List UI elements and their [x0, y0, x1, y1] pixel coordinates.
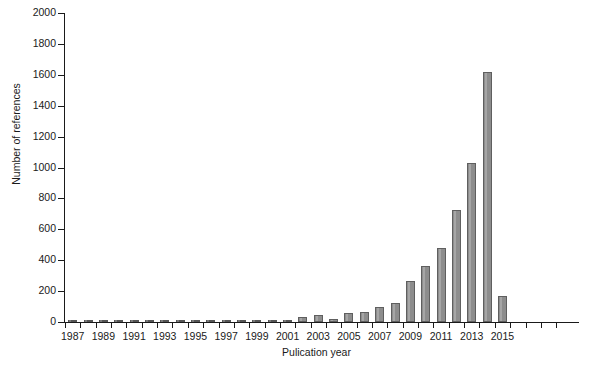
bar-2015	[498, 296, 507, 322]
x-tick	[479, 323, 480, 328]
x-tick	[449, 323, 450, 328]
y-tick-1000	[58, 168, 64, 169]
x-tick-label-2015: 2015	[482, 331, 522, 343]
bar-2006	[360, 312, 369, 323]
bar-1996	[206, 320, 215, 322]
bar-1990	[114, 320, 123, 322]
x-tick	[387, 323, 388, 328]
y-tick-1800	[58, 44, 64, 45]
x-tick	[249, 323, 250, 328]
plot-area	[65, 13, 578, 322]
bar-1997	[222, 320, 231, 322]
x-tick	[80, 323, 81, 328]
x-tick	[234, 323, 235, 328]
bar-1995	[191, 320, 200, 322]
x-tick	[126, 323, 127, 328]
x-tick	[541, 323, 542, 328]
bar-2011	[437, 248, 446, 322]
y-tick-1200	[58, 137, 64, 138]
x-tick	[295, 323, 296, 328]
x-tick	[526, 323, 527, 328]
bar-2004	[329, 319, 338, 322]
bar-2008	[391, 303, 400, 322]
y-tick-400	[58, 260, 64, 261]
y-axis-title: Number of references	[10, 34, 22, 234]
y-tick-2000	[58, 13, 64, 14]
x-tick	[556, 323, 557, 328]
bar-1987	[68, 320, 77, 322]
y-tick-label-200: 200	[4, 285, 56, 296]
bar-2014	[483, 72, 492, 322]
x-tick	[433, 323, 434, 328]
x-tick	[341, 323, 342, 328]
y-tick-1600	[58, 75, 64, 76]
x-tick	[188, 323, 189, 328]
bar-2002	[298, 317, 307, 322]
bar-1999	[252, 320, 261, 322]
x-tick	[96, 323, 97, 328]
bar-2012	[452, 210, 461, 322]
x-tick	[495, 323, 496, 328]
bar-2005	[344, 313, 353, 322]
y-tick-1400	[58, 106, 64, 107]
x-tick	[172, 323, 173, 328]
x-axis-title: Pulication year	[0, 346, 591, 358]
bar-1992	[145, 320, 154, 322]
bar-1989	[99, 320, 108, 322]
x-tick	[418, 323, 419, 328]
bar-1998	[237, 320, 246, 322]
x-tick	[311, 323, 312, 328]
bar-1991	[130, 320, 139, 322]
y-tick-800	[58, 198, 64, 199]
x-axis-title-text: Pulication year	[282, 346, 351, 358]
bar-1988	[84, 320, 93, 322]
bar-2009	[406, 281, 415, 322]
bar-2003	[314, 315, 323, 322]
x-tick	[157, 323, 158, 328]
y-tick-label-400: 400	[4, 254, 56, 265]
y-tick-600	[58, 229, 64, 230]
x-tick	[280, 323, 281, 328]
x-tick	[403, 323, 404, 328]
bar-2010	[421, 266, 430, 322]
bar-2001	[283, 320, 292, 322]
x-tick	[464, 323, 465, 328]
x-tick	[265, 323, 266, 328]
x-tick	[111, 323, 112, 328]
x-tick	[203, 323, 204, 328]
bar-1994	[176, 320, 185, 322]
x-tick	[65, 323, 66, 328]
x-tick	[372, 323, 373, 328]
x-tick	[357, 323, 358, 328]
y-tick-label-0: 0	[4, 316, 56, 327]
x-tick	[142, 323, 143, 328]
bar-chart-figure: 0200400600800100012001400160018002000 19…	[0, 0, 591, 365]
bar-2013	[467, 163, 476, 322]
bar-2000	[268, 320, 277, 322]
bar-1993	[160, 320, 169, 322]
x-tick	[219, 323, 220, 328]
bar-2007	[375, 307, 384, 322]
x-tick	[510, 323, 511, 328]
y-tick-0	[58, 322, 64, 323]
y-tick-200	[58, 291, 64, 292]
x-tick	[326, 323, 327, 328]
y-tick-label-2000: 2000	[4, 7, 56, 18]
